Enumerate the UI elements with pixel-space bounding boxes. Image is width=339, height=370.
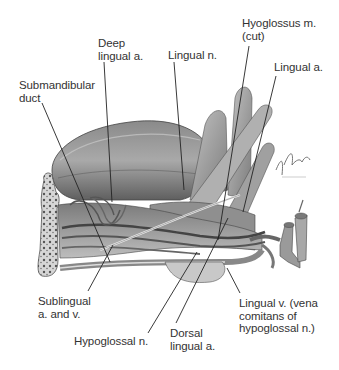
- label-hyoglossus-muscle: Hyoglossus m. (cut): [242, 17, 316, 42]
- label-sublingual-artery-vein: Sublingual a. and v.: [38, 295, 91, 320]
- artist-signature: [276, 154, 310, 177]
- tongue: [52, 121, 211, 200]
- label-dorsal-lingual-artery: Dorsal lingual a.: [170, 327, 215, 352]
- label-lingual-vein: Lingual v. (vena comitans of hypoglossal…: [239, 297, 318, 335]
- leader-lingual-v: [227, 268, 240, 293]
- label-hypoglossal-nerve: Hypoglossal n.: [74, 335, 148, 348]
- label-deep-lingual-artery: Deep lingual a.: [98, 37, 143, 62]
- label-lingual-nerve: Lingual n.: [168, 49, 217, 62]
- label-lingual-artery: Lingual a.: [274, 61, 323, 74]
- label-submandibular-duct: Submandibular duct: [19, 79, 95, 104]
- mandible-section: [38, 173, 59, 276]
- anatomy-figure: Deep lingual a. Lingual n. Hyoglossus m.…: [0, 0, 339, 370]
